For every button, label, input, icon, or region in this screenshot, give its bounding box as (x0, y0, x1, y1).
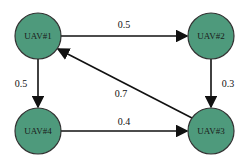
edge-label: 0.5 (15, 78, 28, 89)
node-label: UAV#4 (24, 126, 52, 136)
edge-label: 0.7 (115, 88, 128, 99)
uav-graph: 0.5 0.3 0.7 0.5 0.4 UAV#1 UAV#2 UAV#3 UA… (0, 0, 251, 167)
edge-label: 0.3 (222, 78, 235, 89)
node-label: UAV#2 (197, 31, 224, 41)
node-label: UAV#3 (197, 126, 225, 136)
edge-label: 0.5 (118, 19, 131, 30)
edge-label: 0.4 (118, 116, 131, 127)
edge-uav3-uav1 (58, 49, 192, 118)
node-label: UAV#1 (24, 31, 51, 41)
